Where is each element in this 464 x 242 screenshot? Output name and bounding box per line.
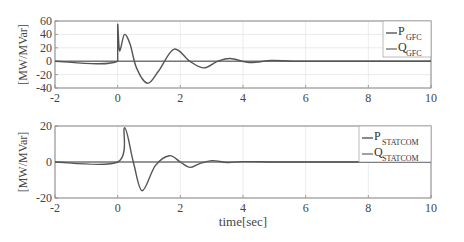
legend-label: P: [374, 129, 381, 143]
x-tick-label: 8: [365, 91, 371, 105]
x-tick-label: 10: [425, 91, 437, 105]
y-tick-label: -40: [36, 81, 52, 95]
legend-label: P: [398, 24, 405, 38]
x-axis-label: time[sec]: [219, 214, 267, 229]
y-tick-label: 40: [40, 27, 52, 41]
y-tick-label: 0: [46, 155, 52, 169]
x-tick-label: 6: [303, 201, 309, 215]
bottom-axes-statcom: -20246810200-20[MW/MVar]PSTATCOMQSTATCOM: [16, 119, 437, 215]
y-tick-label: 0: [46, 54, 52, 68]
y-axis-label: [MW/MVar]: [16, 132, 30, 193]
x-tick-label: 6: [303, 91, 309, 105]
figure: -202468106040200-20-40[MW/MVar]PGFCQGFC …: [0, 0, 464, 242]
legend-label-subscript: STATCOM: [382, 138, 419, 147]
x-tick-label: 4: [240, 91, 246, 105]
y-tick-label: -20: [36, 68, 52, 82]
y-tick-label: 20: [40, 119, 52, 133]
y-tick-label: 20: [40, 41, 52, 55]
y-tick-label: -20: [36, 191, 52, 205]
x-tick-label: 8: [365, 201, 371, 215]
top-axes-gfc: -202468106040200-20-40[MW/MVar]PGFCQGFC: [16, 14, 437, 105]
legend-label-subscript: GFC: [406, 49, 422, 58]
x-tick-label: 0: [115, 201, 121, 215]
x-tick-label: 2: [177, 91, 183, 105]
x-tick-label: 4: [240, 201, 246, 215]
y-axis-label: [MW/MVar]: [16, 24, 30, 85]
x-tick-label: 2: [177, 201, 183, 215]
x-tick-label: 0: [115, 91, 121, 105]
legend-label-subscript: GFC: [406, 33, 422, 42]
legend-label-subscript: STATCOM: [382, 154, 419, 163]
x-tick-label: 10: [425, 201, 437, 215]
y-tick-label: 60: [40, 14, 52, 28]
